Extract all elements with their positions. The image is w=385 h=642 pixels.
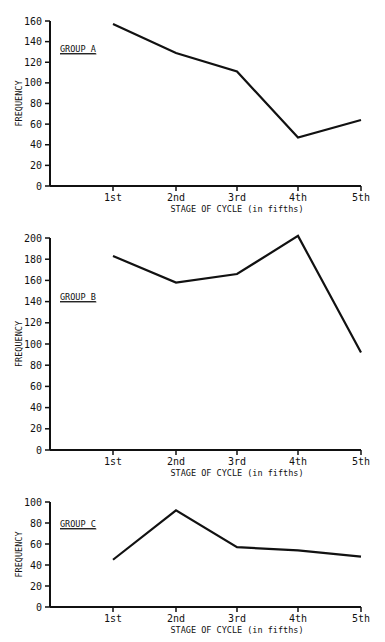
group-label-group-c: GROUP C [60,519,96,529]
x-tick-label: 5th [352,192,370,203]
y-tick-label: 80 [30,98,42,109]
y-tick-label: 20 [30,423,42,434]
x-tick-label: 4th [289,613,307,624]
y-tick-label: 100 [24,77,42,88]
y-tick-label: 40 [30,139,42,150]
data-series-line-group-a [113,24,361,137]
x-tick-label: 2nd [167,456,185,467]
x-tick-label: 5th [352,613,370,624]
y-tick-label: 140 [24,296,42,307]
x-tick-label: 2nd [167,192,185,203]
group-label-group-b: GROUP B [60,292,96,302]
x-tick-label: 1st [104,192,122,203]
y-tick-label: 40 [30,560,42,571]
x-tick-label: 2nd [167,613,185,624]
y-tick-label: 60 [30,381,42,392]
chart-panel-group-b: 0204060801001201401601802001st2nd3rd4th5… [0,215,385,480]
x-tick-label: 1st [104,456,122,467]
line-chart-group-a: 0204060801001201401601st2nd3rd4th5thSTAG… [0,0,385,215]
x-tick-label: 4th [289,456,307,467]
y-tick-label: 0 [36,445,42,456]
y-tick-label: 20 [30,160,42,171]
y-tick-label: 40 [30,402,42,413]
y-tick-label: 100 [24,497,42,508]
y-tick-label: 160 [24,275,42,286]
y-tick-label: 0 [36,602,42,613]
y-axis-title: FREQUENCY [14,80,24,126]
y-tick-label: 100 [24,339,42,350]
y-tick-label: 140 [24,36,42,47]
y-tick-label: 120 [24,57,42,68]
x-axis-title: STAGE OF CYCLE (in fifths) [170,204,303,214]
x-tick-label: 5th [352,456,370,467]
y-tick-label: 0 [36,181,42,192]
y-axis-title: FREQUENCY [14,321,24,367]
y-tick-label: 20 [30,581,42,592]
y-tick-label: 200 [24,233,42,244]
x-tick-label: 3rd [228,456,246,467]
data-series-line-group-b [113,236,361,353]
x-tick-label: 4th [289,192,307,203]
y-axis-title: FREQUENCY [14,531,24,577]
y-tick-label: 80 [30,518,42,529]
group-label-group-a: GROUP A [60,44,96,54]
x-axis-title: STAGE OF CYCLE (in fifths) [170,468,303,478]
y-tick-label: 60 [30,539,42,550]
x-tick-label: 3rd [228,613,246,624]
x-axis-title: STAGE OF CYCLE (in fifths) [170,625,303,635]
line-chart-group-c: 0204060801001st2nd3rd4th5thSTAGE OF CYCL… [0,480,385,642]
x-tick-label: 1st [104,613,122,624]
y-tick-label: 160 [24,16,42,27]
y-tick-label: 80 [30,360,42,371]
x-tick-label: 3rd [228,192,246,203]
y-tick-label: 180 [24,254,42,265]
line-chart-group-b: 0204060801001201401601802001st2nd3rd4th5… [0,215,385,480]
y-tick-label: 60 [30,119,42,130]
y-tick-label: 120 [24,317,42,328]
chart-panel-group-a: 0204060801001201401601st2nd3rd4th5thSTAG… [0,0,385,215]
data-series-line-group-c [113,510,361,559]
chart-panel-group-c: 0204060801001st2nd3rd4th5thSTAGE OF CYCL… [0,480,385,642]
